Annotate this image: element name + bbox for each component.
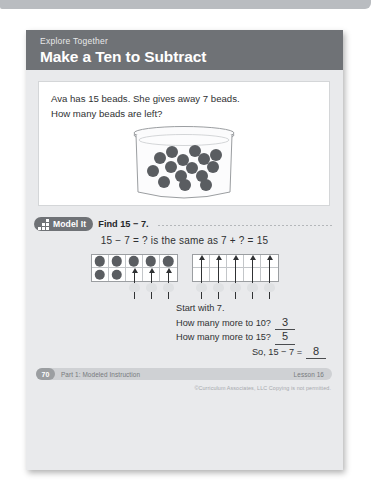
question-1-line: How many more to 10? 3 xyxy=(176,316,326,331)
footer-lesson-label: Lesson 16 xyxy=(294,371,324,378)
faded-counter xyxy=(129,283,140,292)
question-2-text: How many more to 15? xyxy=(176,331,271,345)
question-2-line: How many more to 15? 5 xyxy=(176,330,326,345)
model-it-badge: Model It xyxy=(34,217,93,231)
ten-frames-area xyxy=(26,254,343,282)
equation-line: 15 − 7 = ? is the same as 7 + ? = 15 xyxy=(26,235,343,246)
question-3-line: So, 15 − 7 = 8 xyxy=(176,345,326,360)
page-header: Explore Together Make a Ten to Subtract xyxy=(26,30,343,70)
counter-group-left xyxy=(91,282,178,294)
answer-2-blank[interactable]: 5 xyxy=(275,330,295,345)
page-title: Make a Ten to Subtract xyxy=(40,48,343,66)
jar-of-beads-icon xyxy=(120,126,248,204)
ten-frame-empty-unit xyxy=(192,254,279,282)
page-number-badge: 70 xyxy=(36,368,55,380)
worksheet-page: Explore Together Make a Ten to Subtract … xyxy=(26,30,343,470)
footer-part-label: Part 1: Modeled Instruction xyxy=(61,371,140,378)
faded-counter xyxy=(163,283,174,292)
copyright-text: ©Curriculum Associates, LLC Copying is n… xyxy=(194,385,331,391)
faded-counter xyxy=(247,283,258,292)
faded-counter xyxy=(213,283,224,292)
problem-text: Ava has 15 beads. She gives away 7 beads… xyxy=(39,82,329,121)
problem-line-1: Ava has 15 beads. She gives away 7 beads… xyxy=(51,91,329,106)
arrow-group-left xyxy=(91,254,178,282)
faded-counter xyxy=(230,283,241,292)
answers-block: Start with 7. How many more to 10? 3 How… xyxy=(176,302,326,359)
question-3-text: So, 15 − 7 = xyxy=(252,346,302,360)
start-with-text: Start with 7. xyxy=(176,302,225,316)
jar-illustration-wrap xyxy=(39,126,329,204)
grid-icon xyxy=(38,219,49,230)
start-with-line: Start with 7. xyxy=(176,302,326,316)
problem-card: Ava has 15 beads. She gives away 7 beads… xyxy=(38,81,330,206)
faded-counter xyxy=(264,283,275,292)
answer-1-blank[interactable]: 3 xyxy=(275,316,295,331)
page-eyebrow: Explore Together xyxy=(40,36,343,47)
dotted-leader xyxy=(157,225,334,226)
window-chrome-bar xyxy=(0,0,371,9)
faded-counter xyxy=(146,283,157,292)
ten-frame-filled-unit xyxy=(91,254,178,282)
arrow-group-right xyxy=(192,254,279,282)
problem-line-2: How many beads are left? xyxy=(51,106,329,121)
model-it-label: Model It xyxy=(53,219,86,229)
counter-group-right xyxy=(192,282,279,294)
model-it-row: Model It Find 15 − 7. xyxy=(34,217,334,231)
answer-3-blank[interactable]: 8 xyxy=(306,345,326,360)
footer-bar: 70 Part 1: Modeled Instruction Lesson 16 xyxy=(36,368,332,380)
faded-counter xyxy=(196,283,207,292)
model-it-task: Find 15 − 7. xyxy=(98,219,148,229)
question-1-text: How many more to 10? xyxy=(176,317,271,331)
page-body: Ava has 15 beads. She gives away 7 beads… xyxy=(26,70,343,470)
